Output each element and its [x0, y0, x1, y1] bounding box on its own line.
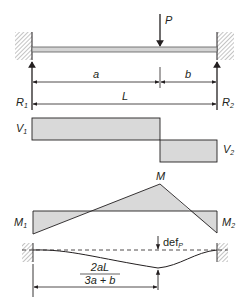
shear-right-label: V2 [223, 143, 234, 156]
right-fixed-support-icon [217, 32, 234, 60]
moment-diagram: M M1 M2 [14, 170, 235, 234]
location-denominator: 3a + b [85, 274, 116, 286]
dimension-b-label: b [185, 68, 191, 80]
moment-peak-label: M [156, 170, 166, 182]
beam [32, 47, 217, 52]
deflection-diagram: defP 2aL 3a + b [22, 236, 228, 297]
shear-left-label: V1 [16, 122, 27, 135]
deflected-shape [33, 250, 217, 268]
shear-diagram: V1 V2 [16, 118, 234, 162]
location-numerator: 2aL [90, 261, 109, 273]
beam-diagram: P R1 R2 a b L V1 V2 M M1 M2 [0, 0, 248, 308]
dimension-L-label: L [122, 90, 128, 102]
dimension-a-label: a [93, 68, 99, 80]
deflection-right-support-icon [217, 243, 228, 262]
load-label: P [165, 14, 173, 26]
moment-left-label: M1 [14, 216, 27, 229]
shear-positive-region [32, 118, 160, 140]
beam-schematic: P R1 R2 a b L [15, 14, 234, 110]
deflection-label: defP [163, 236, 183, 249]
reaction-left-label: R1 [16, 96, 28, 109]
deflection-left-support-icon [22, 243, 33, 262]
moment-right-label: M2 [222, 216, 235, 229]
shear-negative-region [160, 140, 217, 162]
left-fixed-support-icon [15, 32, 32, 60]
reaction-right-label: R2 [222, 96, 234, 109]
